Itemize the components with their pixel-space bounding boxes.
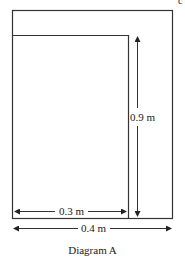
inner-rectangle bbox=[13, 36, 129, 219]
height-label: 0.9 m bbox=[130, 111, 155, 123]
diagram-caption: Diagram A bbox=[0, 244, 185, 256]
outer-width-label: 0.4 m bbox=[81, 222, 106, 234]
inner-width-label: 0.3 m bbox=[59, 205, 84, 217]
corner-mark: c bbox=[178, 0, 182, 7]
